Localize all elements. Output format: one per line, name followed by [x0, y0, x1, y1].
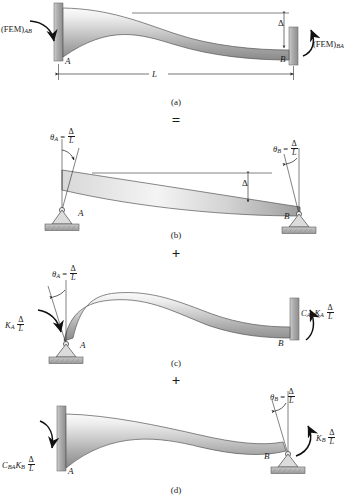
- moment-arrow-left-a: [30, 21, 54, 41]
- node-label-c-right: B: [278, 338, 284, 348]
- beam-deflected-a: [63, 8, 289, 60]
- moment-arrow-left-d: [40, 421, 53, 448]
- caption-b: (b): [0, 230, 352, 240]
- node-label-c-left: A: [80, 340, 86, 350]
- frac-delta-over-l-c-theta: Δ L: [70, 265, 77, 283]
- span-label-a: L: [152, 69, 157, 79]
- node-label-b-right: B: [284, 211, 290, 221]
- moment-arrow-right-a: [303, 30, 313, 56]
- panel-c: θA = Δ L KA Δ L CABKA Δ L A B: [0, 262, 352, 372]
- node-label-d-left: A: [68, 466, 74, 476]
- caption-c: (c): [0, 358, 352, 368]
- angle-arc-left-b: [62, 150, 74, 160]
- pin-support-left-c: [56, 344, 76, 357]
- frac-delta-over-l-b-right: Δ L: [291, 140, 298, 158]
- pin-support-left-b: [52, 210, 72, 224]
- pin-support-right-d: [278, 454, 298, 467]
- operator-plus-1: +: [0, 245, 352, 262]
- theta-a-label-b: θA = Δ L: [50, 128, 75, 146]
- frac-delta-over-l-d-right: Δ L: [328, 429, 335, 447]
- frac-delta-over-l-c-right: Δ L: [327, 304, 334, 322]
- panel-d: θB = Δ L CBAKB Δ L KB Δ L A B: [0, 388, 352, 495]
- fixed-support-left-d: [57, 406, 66, 471]
- moment-ka-label-c: KA Δ L: [5, 316, 25, 334]
- moment-cab-ka-label-c: CABKA Δ L: [301, 304, 334, 322]
- fixed-support-left: [54, 3, 63, 61]
- delta-label-b: Δ: [242, 178, 248, 188]
- theta-a-label-c: θA = Δ L: [52, 265, 77, 283]
- panel-a: (FEM)AB (FEM)BA A B L Δ: [0, 0, 352, 110]
- node-label-b-left: A: [78, 208, 84, 218]
- delta-label-a: Δ: [278, 18, 284, 28]
- theta-b-label-b: θB = Δ L: [273, 140, 298, 158]
- moment-arrow-right-d: [296, 426, 311, 456]
- panel-b: θA = Δ L θB = Δ L A B Δ: [0, 128, 352, 238]
- operator-equals: =: [0, 112, 352, 129]
- angle-arc-left-c: [53, 290, 65, 297]
- node-label-a-right: B: [280, 54, 286, 64]
- figure-superposition-beam: (FEM)AB (FEM)BA A B L Δ (a) =: [0, 0, 352, 495]
- beam-rigid-rotated-b: [62, 170, 300, 216]
- fem-ba-label: (FEM)BA: [313, 40, 344, 50]
- caption-d: (d): [0, 485, 352, 495]
- theta-b-label-d: θB = Δ L: [270, 388, 295, 406]
- beam-deflected-d: [66, 414, 286, 468]
- panel-d-graphic: [0, 388, 352, 495]
- fem-ab-label: (FEM)AB: [1, 25, 32, 35]
- moment-cba-kb-label-d: CBAKB Δ L: [2, 456, 35, 474]
- fixed-support-right: [289, 27, 298, 65]
- frac-delta-over-l-b-left: Δ L: [68, 128, 75, 146]
- fixed-support-right-c: [290, 298, 299, 340]
- angle-arc-right-b: [286, 158, 297, 164]
- frac-delta-over-l-c-left: Δ L: [17, 316, 24, 334]
- operator-plus-2: +: [0, 372, 352, 389]
- caption-a: (a): [0, 97, 352, 107]
- frac-delta-over-l-d-left: Δ L: [28, 456, 35, 474]
- node-label-d-right: B: [264, 451, 270, 461]
- moment-arrow-left-c: [38, 310, 61, 332]
- frac-delta-over-l-d-theta: Δ L: [288, 388, 295, 406]
- beam-deflected-c: [64, 293, 290, 341]
- panel-a-graphic: [0, 0, 352, 110]
- node-label-a-left: A: [65, 56, 71, 66]
- moment-kb-label-d: KB Δ L: [316, 429, 336, 447]
